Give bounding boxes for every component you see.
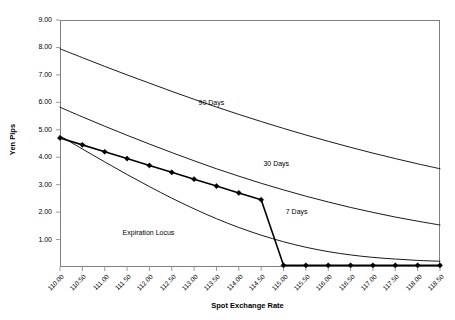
series-annotation: 90 Days	[199, 99, 225, 106]
y-axis-title: Yen Pips	[8, 110, 17, 170]
series-marker-diamond	[393, 263, 398, 268]
y-tick-label: 3.00	[18, 181, 52, 188]
series-marker-diamond	[102, 149, 107, 154]
series-marker-diamond	[326, 263, 331, 268]
series-marker-diamond	[80, 142, 85, 147]
series-marker-diamond	[281, 263, 286, 268]
series-line-1	[60, 49, 440, 169]
chart-canvas	[0, 0, 455, 320]
series-marker-diamond	[303, 263, 308, 268]
series-line-4	[60, 138, 440, 265]
series-line-3	[60, 136, 440, 261]
series-marker-diamond	[415, 263, 420, 268]
y-tick-label: 8.00	[18, 43, 52, 50]
series-line-2	[60, 107, 440, 225]
series-annotation: 7 Days	[286, 208, 308, 215]
series-annotation: Expiration Locus	[123, 229, 175, 236]
series-marker-diamond	[236, 190, 241, 195]
series-annotation: 30 Days	[263, 160, 289, 167]
series-marker-diamond	[192, 177, 197, 182]
series-marker-diamond	[348, 263, 353, 268]
x-axis-title: Spot Exchange Rate	[0, 301, 455, 310]
y-tick-label: 2.00	[18, 208, 52, 215]
y-tick-label: 6.00	[18, 98, 52, 105]
series-marker-diamond	[214, 183, 219, 188]
series-marker-diamond	[437, 263, 442, 268]
y-tick-label: 1.00	[18, 236, 52, 243]
y-tick-label: 4.00	[18, 153, 52, 160]
series-marker-diamond	[370, 263, 375, 268]
series-marker-diamond	[169, 170, 174, 175]
y-tick-label: 5.00	[18, 126, 52, 133]
chart-root: 1.002.003.004.005.006.007.008.009.00 110…	[0, 0, 455, 320]
series-marker-diamond	[259, 197, 264, 202]
series-marker-diamond	[124, 156, 129, 161]
series-marker-diamond	[57, 135, 62, 140]
series-marker-diamond	[147, 163, 152, 168]
y-tick-label: 7.00	[18, 71, 52, 78]
y-tick-label: 9.00	[18, 16, 52, 23]
